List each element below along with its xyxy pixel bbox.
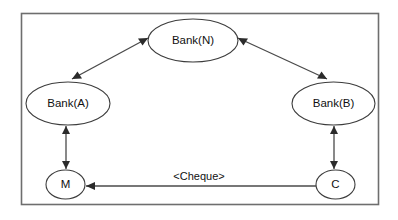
arrow-head-to-m-left — [86, 182, 95, 190]
edge-line-bank-a-bank-n — [72, 38, 148, 79]
edge-line-bank-b-bank-n — [238, 38, 327, 79]
arrow-head-to-bank-a — [72, 72, 82, 80]
node-bank-b[interactable]: Bank(B) — [292, 82, 375, 125]
arrow-head-to-bank-a-up — [62, 126, 70, 134]
arrow-head-to-c-down — [330, 161, 338, 169]
node-bank-a[interactable]: Bank(A) — [26, 82, 110, 125]
node-bank-n-label: Bank(N) — [172, 34, 214, 46]
node-m-label: M — [61, 178, 71, 190]
node-m[interactable]: M — [46, 170, 85, 199]
edge-label-cheque: <Cheque> — [173, 170, 224, 182]
node-bank-a-label: Bank(A) — [47, 97, 89, 109]
edge-bank-b-bank-n — [238, 38, 327, 79]
node-c-label: C — [331, 178, 339, 190]
node-c[interactable]: C — [316, 170, 355, 199]
edge-bank-a-m — [62, 126, 70, 169]
arrow-head-to-m-down — [62, 161, 70, 169]
diagram-canvas: Bank(N) Bank(A) Bank(B) M C <Cheque> — [0, 0, 398, 220]
arrow-head-to-bank-n — [138, 38, 148, 46]
node-bank-n[interactable]: Bank(N) — [148, 19, 238, 62]
edge-c-m-cheque — [86, 182, 316, 190]
diagram-svg: Bank(N) Bank(A) Bank(B) M C <Cheque> — [0, 0, 398, 220]
edge-bank-b-c — [330, 126, 338, 169]
node-bank-b-label: Bank(B) — [313, 97, 355, 109]
arrow-head-to-bank-b-up — [330, 126, 338, 134]
edge-bank-a-bank-n — [72, 38, 148, 79]
